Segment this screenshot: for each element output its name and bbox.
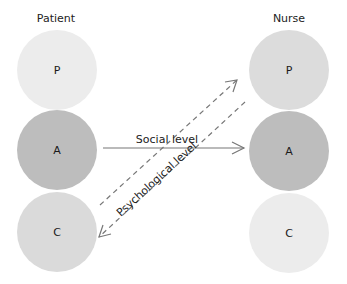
- transaction-arrows: Social level Psychological level: [0, 0, 347, 284]
- psychological-level-label: Psychological level: [114, 140, 199, 220]
